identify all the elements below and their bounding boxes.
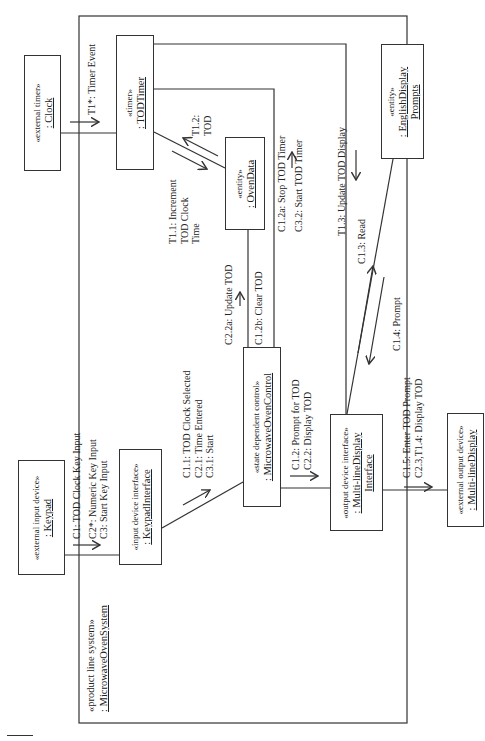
message-keypad-input: C1: TOD Clock Key Input C2*: Numeric Key… <box>71 433 110 539</box>
object-name: : KeypadInterface <box>141 464 153 551</box>
system-name: : MicrowaveOvenSystem <box>97 605 110 712</box>
object-name-line2: Interface <box>363 427 375 518</box>
object-name: : Multi-lineDisplay <box>466 426 478 515</box>
message-t1-1: T1.1: Increment TOD Clock Time <box>167 180 202 244</box>
message-c2-2a: C2.2a: Update TOD <box>223 265 235 345</box>
object-name: : MicrowaveOvenControl <box>262 373 274 481</box>
object-keypad-interface[interactable]: «input device interface» : KeypadInterfa… <box>119 449 162 565</box>
footnote-rule <box>7 735 33 736</box>
object-english-display-prompts[interactable]: «entity» : EnglishDisplay Prompts <box>381 44 424 159</box>
object-tod-timer[interactable]: «timer» : TODTimer <box>116 35 154 170</box>
object-microwave-oven-control[interactable]: «state dependent control» : MicrowaveOve… <box>243 347 281 507</box>
stereotype: «input device interface» <box>129 464 141 551</box>
object-name: : OvenData <box>245 159 257 207</box>
object-multiline-display-interface[interactable]: «output device interface» : Multi-lineDi… <box>330 414 383 531</box>
message-t1-3: T1.3: Update TOD Display <box>336 127 348 236</box>
stereotype: «state dependent control» <box>250 373 262 481</box>
message-t1-2: T1.2: TOD <box>190 115 213 136</box>
message-c1-3: C1.3: Read <box>356 219 368 264</box>
object-name-line2: Prompts <box>409 66 421 136</box>
object-name-line1: : EnglishDisplay <box>397 66 409 136</box>
object-name: : Keypad <box>42 475 54 559</box>
stereotype: «external timer» <box>31 83 43 142</box>
message-c1-2a-c3-2: C1.2a: Stop TOD Timer C3.2: Start TOD Ti… <box>276 136 304 232</box>
stereotype: «entity» <box>233 159 245 207</box>
message-to-display-interface: C1.2: Prompt for TOD C2.2: Display TOD <box>290 379 313 470</box>
object-name: : TODTimer <box>135 76 147 128</box>
message-c1-2b: C1.2b: Clear TOD <box>253 271 265 345</box>
object-clock[interactable]: «external timer» : Clock <box>24 55 61 171</box>
object-keypad[interactable]: «external input device» : Keypad <box>18 460 65 575</box>
stereotype: «output device interface» <box>339 427 351 518</box>
object-name: : Clock <box>43 83 55 142</box>
object-multiline-display[interactable]: «external output device» : Multi-lineDis… <box>447 413 484 527</box>
message-to-control: C1.1: TOD Clock Selected C2.1: Time Ente… <box>181 371 216 478</box>
message-t1: T1*: Timer Event <box>86 44 98 115</box>
stereotype: «external input device» <box>30 475 42 559</box>
message-c1-4: C1.4: Prompt <box>391 297 403 351</box>
system-stereotype: «product line system» <box>84 605 97 712</box>
message-to-display: C1.5: Enter TOD Prompt C2.3,T1.4: Displa… <box>401 377 424 478</box>
stereotype: «external output device» <box>454 426 466 515</box>
stereotype: «entity» <box>385 66 397 136</box>
stereotype: «timer» <box>123 76 135 128</box>
object-name-line1: : Multi-lineDisplay <box>351 427 363 518</box>
object-oven-data[interactable]: «entity» : OvenData <box>225 137 265 230</box>
system-label: «product line system» : MicrowaveOvenSys… <box>84 605 110 712</box>
